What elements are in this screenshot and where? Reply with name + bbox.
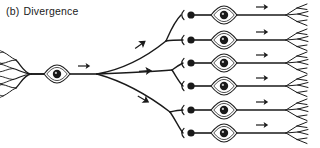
target-soma <box>211 124 237 142</box>
collateral-arrow-middle <box>139 68 152 75</box>
target-neuron-5 <box>182 99 308 121</box>
source-neuron <box>0 49 98 99</box>
source-soma <box>44 65 70 83</box>
presynaptic-terminal-bouton-icon <box>187 36 194 43</box>
collateral-branch-row2 <box>166 40 183 41</box>
target-neurons-layer <box>182 4 308 144</box>
collateral-branch-row5 <box>170 110 183 112</box>
presynaptic-terminal-bouton-icon <box>187 59 194 66</box>
target-neuron-3 <box>182 52 308 74</box>
target-terminal-arbor <box>286 122 308 144</box>
figure-panel-b-divergence: (b)Divergence <box>0 0 320 148</box>
target-soma <box>211 77 237 95</box>
target-terminal-arbor <box>286 29 308 51</box>
collateral-trunk-lower <box>97 74 170 112</box>
presynaptic-terminal-bouton-icon <box>187 106 194 113</box>
presynaptic-terminal-bouton-icon <box>187 82 194 89</box>
panel-label: (b) <box>6 5 19 17</box>
target-neuron-6 <box>182 122 308 144</box>
target-soma <box>211 101 237 119</box>
target-soma <box>211 54 237 72</box>
target-axon-direction-arrow <box>256 52 268 58</box>
presynaptic-terminal-bouton-icon <box>187 129 194 136</box>
target-axon-direction-arrow <box>256 29 268 35</box>
target-terminal-arbor <box>286 52 308 74</box>
target-axon-direction-arrow <box>256 4 268 10</box>
panel-caption: (b)Divergence <box>6 5 79 17</box>
collateral-arrow-lower <box>136 93 149 104</box>
target-terminal-arbor <box>286 4 308 26</box>
target-axon-direction-arrow <box>256 99 268 105</box>
target-soma <box>211 6 237 24</box>
target-axon-direction-arrow <box>256 75 268 81</box>
presynaptic-terminal-bouton-icon <box>187 11 194 18</box>
collateral-trunk-upper <box>97 41 166 74</box>
postsynaptic-dendrite-cup-icon <box>182 10 184 19</box>
panel-title: Divergence <box>23 5 78 17</box>
axon-collateral-tree <box>97 15 183 133</box>
target-axon-direction-arrow <box>256 122 268 128</box>
target-terminal-arbor <box>286 99 308 121</box>
collateral-arrow-upper <box>133 39 146 51</box>
collateral-branch-row1 <box>166 15 181 41</box>
source-axon-direction-arrow <box>78 63 90 69</box>
collateral-branch-row4 <box>172 70 183 86</box>
collateral-branch-row6 <box>170 112 183 133</box>
target-soma <box>211 31 237 49</box>
divergence-circuit-diagram <box>0 0 320 148</box>
target-terminal-arbor <box>286 75 308 97</box>
target-neuron-2 <box>182 29 308 51</box>
target-neuron-1 <box>182 4 308 26</box>
target-neuron-4 <box>182 75 308 97</box>
